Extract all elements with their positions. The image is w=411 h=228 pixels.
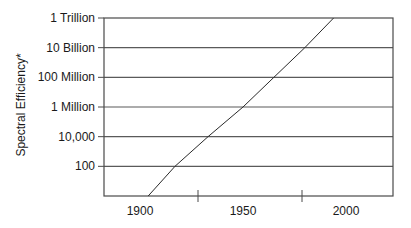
- x-tick-labels: 190019502000: [127, 204, 360, 218]
- y-tick-label: 1 Trillion: [50, 11, 95, 25]
- y-tick-label: 100: [75, 159, 95, 173]
- y-axis-title: Spectral Efficiency*: [14, 53, 28, 156]
- y-tick-label: 10,000: [58, 130, 95, 144]
- y-tick-label: 100 Million: [38, 70, 95, 84]
- horizontal-gridlines: [98, 18, 393, 166]
- x-tick-label: 2000: [333, 204, 360, 218]
- x-tick-label: 1900: [127, 204, 154, 218]
- y-tick-labels: 10010,0001 Million100 Million10 Billion1…: [38, 11, 96, 173]
- y-tick-label: 10 Billion: [46, 41, 95, 55]
- spectral-efficiency-chart: Spectral Efficiency* 10010,0001 Million1…: [0, 0, 411, 228]
- y-tick-label: 1 Million: [51, 100, 95, 114]
- x-tick-label: 1950: [230, 204, 257, 218]
